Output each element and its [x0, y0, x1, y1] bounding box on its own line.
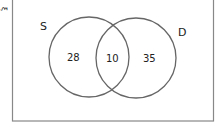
set-d-only-value: 35 [143, 53, 156, 64]
universal-set-symbol: ξ [0, 7, 8, 11]
venn-diagram: ξ S D 28 10 35 [0, 0, 219, 123]
set-d-label: D [178, 26, 186, 39]
intersection-value: 10 [106, 53, 119, 64]
set-s-label: S [40, 20, 47, 33]
set-s-only-value: 28 [67, 52, 80, 63]
